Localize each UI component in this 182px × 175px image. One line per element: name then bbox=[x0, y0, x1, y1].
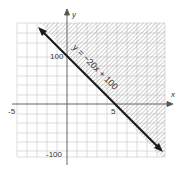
x-axis-arrow-icon bbox=[167, 102, 173, 107]
y-axis-arrow-icon bbox=[65, 9, 70, 15]
coordinate-plane: y x -5 5 100 -100 y = −20x + 100 bbox=[0, 0, 182, 175]
x-axis-label: x bbox=[170, 90, 176, 99]
graph-figure: y x -5 5 100 -100 y = −20x + 100 bbox=[0, 0, 182, 175]
y-axis-label: y bbox=[71, 10, 77, 19]
tick-label-neg5: -5 bbox=[8, 107, 16, 116]
tick-label-100: 100 bbox=[50, 52, 64, 61]
tick-label-5: 5 bbox=[111, 107, 116, 116]
tick-label-neg100: -100 bbox=[46, 150, 63, 159]
